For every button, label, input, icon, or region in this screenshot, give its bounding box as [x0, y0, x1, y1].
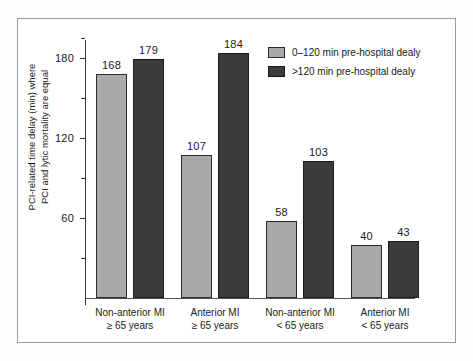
y-axis-title-line-1: PCI-related time delay (min) where [26, 22, 39, 252]
bar-value-g3-s0: 40 [351, 231, 382, 242]
chart-legend: 0–120 min pre-hospital dealy >120 min pr… [268, 46, 443, 84]
bar-value-g2-s1: 103 [303, 147, 334, 158]
bar-g3-s1[interactable] [388, 241, 419, 298]
bar-value-g2-s0: 58 [266, 207, 297, 218]
bar-value-g1-s0: 107 [181, 141, 212, 152]
legend-label-0: 0–120 min pre-hospital dealy [292, 47, 420, 58]
y-tick-180 [80, 58, 85, 59]
bar-value-g3-s1: 43 [388, 227, 419, 238]
legend-item-1[interactable]: >120 min pre-hospital dealy [268, 65, 443, 78]
y-tick-minor-90 [81, 178, 85, 179]
figure-container: 180 120 60 PCI-related time delay (min) … [0, 0, 473, 361]
y-axis-title-wrapper: PCI-related time delay (min) where PCI a… [26, 22, 60, 252]
x-category-label-3-line2: < 65 years [333, 319, 437, 332]
y-tick-120 [80, 138, 85, 139]
legend-label-1: >120 min pre-hospital dealy [292, 66, 415, 77]
bar-g1-s1[interactable] [218, 53, 249, 298]
bar-value-g0-s1: 179 [133, 45, 164, 56]
y-axis-title-line-2: PCI and lytic mortality are equal [39, 22, 52, 252]
y-axis-line [85, 40, 86, 305]
x-axis-line [85, 298, 415, 299]
bar-g0-s1[interactable] [133, 59, 164, 298]
x-category-label-3: Anterior MI < 65 years [333, 306, 437, 332]
bar-g0-s0[interactable] [96, 74, 127, 298]
y-tick-minor-30 [81, 258, 85, 259]
y-tick-minor-150 [81, 98, 85, 99]
legend-swatch-icon-1 [268, 66, 285, 77]
y-axis-title: PCI-related time delay (min) where PCI a… [26, 22, 51, 252]
x-category-label-3-line1: Anterior MI [333, 306, 437, 319]
bar-g2-s0[interactable] [266, 221, 297, 298]
bar-chart-plot: 180 120 60 PCI-related time delay (min) … [0, 0, 473, 361]
legend-item-0[interactable]: 0–120 min pre-hospital dealy [268, 46, 443, 59]
bar-value-g0-s0: 168 [96, 60, 127, 71]
bar-g3-s0[interactable] [351, 245, 382, 298]
bar-g1-s0[interactable] [181, 155, 212, 298]
legend-swatch-icon-0 [268, 47, 285, 58]
bar-value-g1-s1: 184 [218, 39, 249, 50]
y-tick-60 [80, 218, 85, 219]
y-tick-minor-195 [81, 38, 85, 39]
bar-g2-s1[interactable] [303, 161, 334, 298]
